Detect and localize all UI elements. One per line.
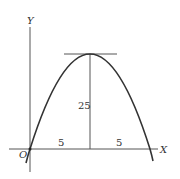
y-axis-label: Y — [27, 15, 35, 26]
height-label: 25 — [78, 100, 91, 111]
left-half-width-label: 5 — [58, 137, 64, 148]
origin-label: O — [19, 149, 27, 160]
origin-point — [29, 148, 32, 151]
x-axis-label: X — [159, 144, 168, 155]
right-half-width-label: 5 — [116, 137, 122, 148]
parabola-diagram: Y X O 25 5 5 — [0, 0, 180, 179]
